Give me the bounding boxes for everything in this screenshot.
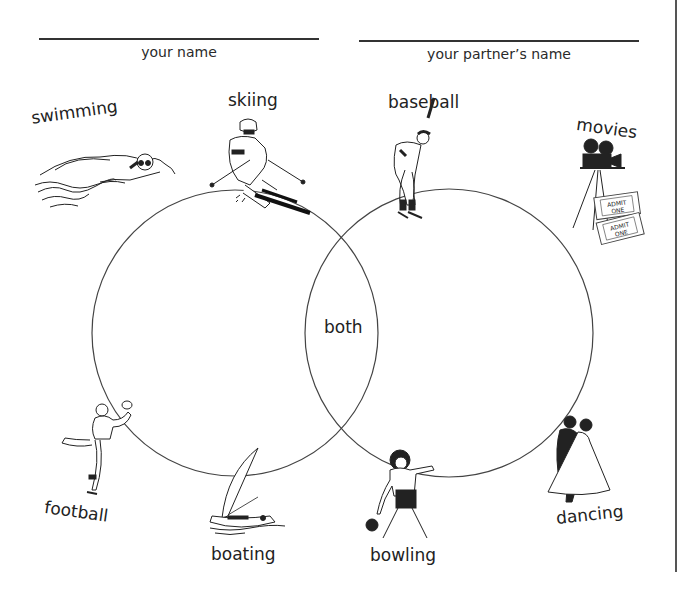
sailboat-icon — [210, 448, 285, 535]
batter-icon — [394, 98, 434, 218]
football-player-icon — [62, 401, 132, 494]
skier-icon — [210, 119, 310, 213]
bowler-icon — [366, 450, 434, 538]
label-both: both — [324, 317, 363, 337]
label-skiing: skiing — [228, 90, 278, 110]
dancing-couple-icon — [548, 416, 610, 502]
admit-one-tickets-icon: ADMIT ONE ADMIT ONE — [594, 192, 644, 245]
label-baseball: baseball — [388, 92, 459, 112]
label-boating: boating — [211, 544, 276, 564]
swimmer-icon — [35, 154, 175, 207]
label-bowling: bowling — [370, 545, 436, 565]
